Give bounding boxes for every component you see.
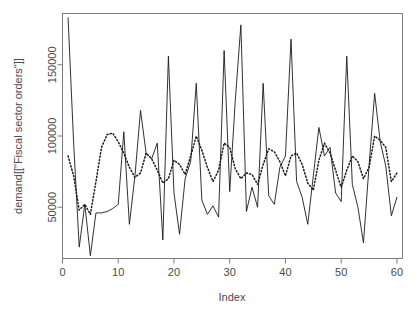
- chart-figure: 50000100000150000 0102030405060 Index de…: [0, 0, 417, 323]
- y-tick-label: 50000: [46, 192, 58, 223]
- x-tick-label: 20: [168, 266, 180, 278]
- y-axis-title: demand[["Fiscal sector orders"]]: [12, 58, 24, 214]
- x-axis-title: Index: [219, 291, 246, 303]
- x-tick-label: 60: [391, 266, 403, 278]
- x-tick-label: 50: [335, 266, 347, 278]
- y-tick-label: 100000: [46, 118, 58, 155]
- x-tick-label: 0: [59, 266, 65, 278]
- x-tick-label: 10: [112, 266, 124, 278]
- y-tick-label: 150000: [46, 46, 58, 83]
- x-tick-label: 40: [279, 266, 291, 278]
- y-axis-tick-labels: 50000100000150000: [46, 46, 58, 222]
- chart-canvas: 50000100000150000 0102030405060 Index de…: [0, 0, 417, 323]
- x-tick-label: 30: [224, 266, 236, 278]
